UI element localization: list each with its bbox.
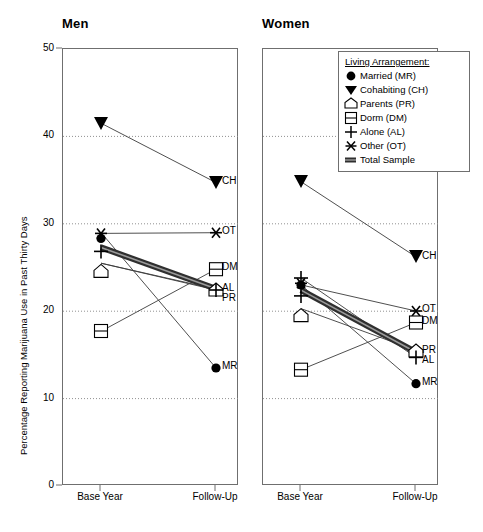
legend-item-dorm[interactable]: Dorm (DM) [344, 111, 464, 125]
point-label-women-mr: MR [422, 376, 438, 387]
series-lines-men [101, 123, 216, 368]
total-sample-band-men [101, 247, 216, 288]
point-label-men-ot: OT [222, 225, 236, 236]
point-label-men-ch: CH [222, 175, 236, 186]
y-tick-50: 50 [32, 42, 54, 53]
point-label-men-dm: DM [222, 261, 238, 272]
legend-label-parents: Parents (PR) [360, 97, 415, 111]
y-tick-0: 0 [32, 479, 54, 490]
legend-label-other: Other (OT) [360, 139, 406, 153]
panel-title-women: Women [262, 16, 310, 31]
chart-figure: Percentage Reporting Marijuana Use in Pa… [0, 0, 483, 532]
point-label-women-ot: OT [422, 303, 436, 314]
plus-icon [344, 125, 360, 139]
point-label-women-ch: CH [422, 250, 436, 261]
total-sample-band-women [301, 290, 416, 352]
legend-label-total-sample: Total Sample [360, 153, 415, 167]
thick-bar-icon [344, 153, 360, 167]
x-tick-men-follow-up: Follow-Up [185, 491, 245, 502]
x-tick-men-base-year: Base Year [70, 491, 130, 502]
open-square-barred-icon [344, 111, 360, 125]
legend-label-alone: Alone (AL) [360, 125, 405, 139]
series-lines-women [301, 182, 416, 384]
point-label-men-mr: MR [222, 360, 238, 371]
x-tick-women-follow-up: Follow-Up [385, 491, 445, 502]
legend-item-other[interactable]: Other (OT) [344, 139, 464, 153]
legend-item-alone[interactable]: Alone (AL) [344, 125, 464, 139]
legend-title: Living Arrangement: [344, 56, 464, 67]
y-tick-30: 30 [32, 217, 54, 228]
gridlines-women [263, 136, 439, 398]
markers-women-base [294, 175, 308, 376]
point-label-women-dm: DM [422, 315, 438, 326]
filled-circle-icon [344, 69, 360, 83]
filled-triangle-down-icon [344, 83, 360, 97]
y-tick-40: 40 [32, 129, 54, 140]
panel-title-men: Men [62, 16, 89, 31]
legend: Living Arrangement: Married (MR) Cohabit… [338, 51, 470, 172]
point-label-women-al: AL [422, 354, 434, 365]
plot-area-men [62, 48, 238, 485]
legend-item-parents[interactable]: Parents (PR) [344, 97, 464, 111]
y-tick-20: 20 [32, 304, 54, 315]
x-tick-women-base-year: Base Year [270, 491, 330, 502]
legend-label-married: Married (MR) [360, 69, 416, 83]
markers-women-followup [409, 250, 423, 388]
legend-item-cohabiting[interactable]: Cohabiting (CH) [344, 83, 464, 97]
markers-men-followup [209, 176, 223, 373]
legend-item-married[interactable]: Married (MR) [344, 69, 464, 83]
open-house-icon [344, 97, 360, 111]
point-label-men-pr: PR [222, 292, 236, 303]
star-icon [344, 139, 360, 153]
legend-item-total-sample[interactable]: Total Sample [344, 153, 464, 167]
legend-label-cohabiting: Cohabiting (CH) [360, 83, 428, 97]
y-axis-label: Percentage Reporting Marijuana Use in Pa… [18, 217, 29, 456]
y-tick-10: 10 [32, 392, 54, 403]
legend-label-dorm: Dorm (DM) [360, 111, 407, 125]
men-plot-svg [63, 49, 239, 486]
markers-men-base [94, 117, 108, 338]
